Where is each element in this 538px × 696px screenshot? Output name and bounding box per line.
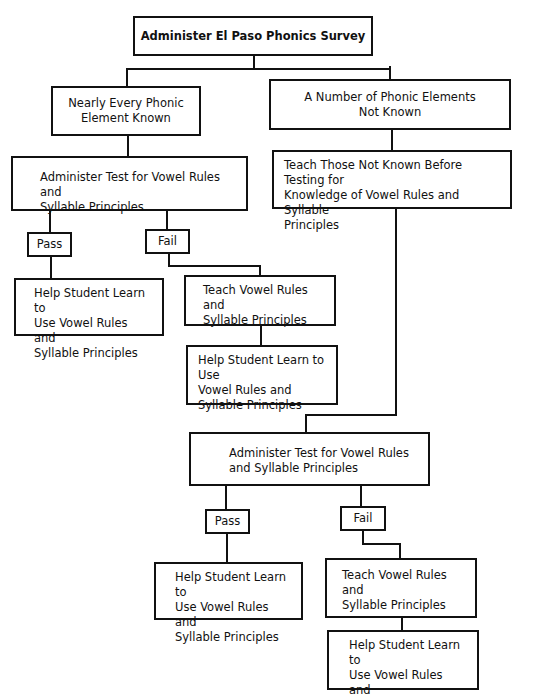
connector [362, 529, 364, 544]
right-fail-action-node: Help Student Learn to Use Vowel Rules an… [327, 630, 479, 690]
connector [226, 532, 228, 564]
left-fail-node: Fail [145, 229, 190, 254]
root-label: Administer El Paso Phonics Survey [141, 29, 366, 44]
left-pass-action-node: Help Student Learn to Use Vowel Rules an… [14, 278, 164, 336]
connector [126, 68, 128, 88]
connector [127, 134, 129, 158]
connector [126, 68, 390, 70]
connector [362, 543, 400, 545]
right-condition-node: A Number of Phonic Elements Not Known [269, 79, 511, 130]
connector [50, 255, 52, 280]
connector [305, 414, 307, 434]
right-test-node: Administer Test for Vowel Rules and Syll… [189, 432, 430, 486]
right-fail-node: Fail [340, 506, 386, 531]
connector [225, 484, 227, 511]
connector [305, 414, 397, 416]
left-fail-action-node: Help Student Learn to Use Vowel Rules an… [186, 345, 338, 405]
root-node: Administer El Paso Phonics Survey [133, 16, 373, 56]
connector [391, 128, 393, 152]
connector [399, 543, 401, 559]
connector [395, 208, 397, 416]
left-fail-teach-node: Teach Vowel Rules and Syllable Principle… [184, 275, 336, 326]
connector [168, 265, 260, 267]
right-pass-node: Pass [205, 509, 250, 534]
left-condition-node: Nearly Every Phonic Element Known [51, 86, 201, 136]
left-pass-node: Pass [27, 232, 72, 257]
left-test-node: Administer Test for Vowel Rules and Syll… [11, 156, 248, 211]
right-teach-first-node: Teach Those Not Known Before Testing for… [272, 150, 512, 209]
connector [253, 54, 255, 69]
right-pass-action-node: Help Student Learn to Use Vowel Rules an… [154, 562, 303, 620]
right-fail-teach-node: Teach Vowel Rules and Syllable Principle… [325, 558, 477, 618]
